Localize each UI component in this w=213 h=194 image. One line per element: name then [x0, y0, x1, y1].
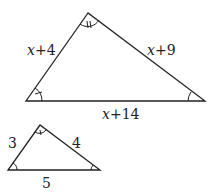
side-label-left: x+4 — [27, 42, 56, 58]
small-triangle: 3 4 5 — [8, 125, 100, 191]
left-angle-arc-icon — [35, 88, 42, 101]
small-triangle-outline — [8, 125, 100, 170]
right-angle-arc-icon — [188, 92, 191, 101]
side-label-bottom: x+14 — [102, 106, 140, 122]
apex-tick-icon — [90, 21, 91, 28]
small-left-arc-icon — [13, 163, 17, 170]
side-label-right: x+9 — [147, 42, 176, 58]
small-apex-tick-icon — [40, 130, 41, 135]
small-side-label-left: 3 — [8, 135, 17, 151]
small-side-label-right: 4 — [72, 135, 81, 151]
large-triangle: x+4 x+9 x+14 — [26, 13, 205, 122]
small-side-label-bottom: 5 — [42, 175, 51, 191]
small-right-arc-icon — [91, 165, 93, 170]
similar-triangles-diagram: x+4 x+9 x+14 3 4 5 — [0, 0, 213, 194]
